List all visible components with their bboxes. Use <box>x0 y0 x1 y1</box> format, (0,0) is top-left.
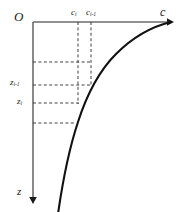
profile-curve <box>58 22 171 212</box>
tick-label-c-i: ci <box>71 8 76 18</box>
horizontal-axis <box>33 18 174 26</box>
tick-label-z-i-minus-1: zi-1 <box>10 78 19 88</box>
tick-label-c-i-minus-1: ci-1 <box>86 8 96 18</box>
tick-label-c-i-minus-1-sub: i-1 <box>90 11 96 17</box>
vertical-axis <box>29 22 37 204</box>
vertical-axis-label: z <box>17 186 21 197</box>
tick-label-c-i-sub: i <box>75 11 76 17</box>
math-diagram-figure: O c z ci ci-1 zi-1 zi <box>0 0 176 212</box>
tick-label-z-i-sub: i <box>21 100 22 106</box>
tick-label-z-i-minus-1-sub: i-1 <box>14 81 20 87</box>
diagram-canvas <box>0 0 176 212</box>
tick-label-z-i: zi <box>17 97 22 107</box>
origin-label: O <box>14 10 23 23</box>
vertical-axis-arrowhead <box>29 197 37 204</box>
horizontal-guide-lines <box>33 62 92 123</box>
horizontal-axis-label: c <box>160 6 165 18</box>
